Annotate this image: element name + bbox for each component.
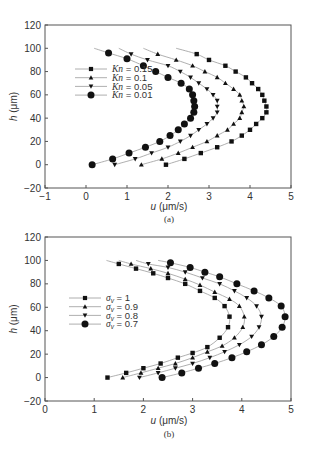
- legend-item: σv = 0.7: [69, 318, 138, 330]
- square-marker-icon: [250, 81, 254, 85]
- square-marker-icon: [223, 64, 227, 68]
- square-marker-icon: [260, 93, 264, 97]
- legend-square-marker-icon: [83, 296, 87, 300]
- square-marker-icon: [227, 314, 231, 318]
- legend-item: Kn = 0.01: [75, 89, 152, 100]
- circle-marker-icon: [279, 324, 286, 331]
- square-marker-icon: [105, 375, 109, 379]
- triangle-up-marker-icon: [220, 343, 225, 347]
- square-marker-icon: [158, 361, 162, 365]
- square-marker-icon: [166, 276, 170, 280]
- legend: σv = 1σv = 0.9σv = 0.8σv = 0.7: [69, 292, 138, 330]
- square-marker-icon: [195, 52, 199, 56]
- square-marker-icon: [176, 355, 180, 359]
- circle-marker-icon: [228, 354, 235, 361]
- y-tick-label: 0: [35, 159, 41, 170]
- circle-marker-icon: [178, 80, 185, 87]
- x-tick-label: −1: [39, 191, 51, 202]
- circle-marker-icon: [181, 120, 188, 127]
- triangle-up-marker-icon: [240, 325, 245, 329]
- x-tick-label: 4: [239, 404, 245, 415]
- square-marker-icon: [190, 351, 194, 355]
- series-curve: [136, 260, 262, 377]
- legend-square-marker-icon: [89, 67, 93, 71]
- triangle-down-marker-icon: [196, 81, 201, 85]
- square-marker-icon: [215, 145, 219, 149]
- chart-panel-b: 012345−20020406080100120u (μm/s)h (μm)(b…: [8, 232, 294, 440]
- y-tick-label: −20: [24, 183, 41, 194]
- triangle-up-marker-icon: [202, 69, 207, 73]
- square-marker-icon: [262, 98, 266, 102]
- y-tick-label: 80: [30, 66, 42, 77]
- circle-marker-icon: [123, 55, 130, 62]
- legend: Kn = 0.15Kn = 0.1Kn = 0.05Kn = 0.01: [75, 63, 152, 100]
- figure-caption: (b): [164, 429, 175, 439]
- square-marker-icon: [240, 133, 244, 137]
- y-axis: −20020406080100120: [24, 20, 48, 194]
- square-marker-icon: [254, 122, 258, 126]
- triangle-down-marker-icon: [215, 105, 220, 109]
- triangle-up-marker-icon: [215, 75, 220, 79]
- triangle-down-marker-icon: [215, 110, 220, 114]
- y-tick-label: 100: [24, 43, 41, 54]
- square-marker-icon: [151, 271, 155, 275]
- circle-marker-icon: [156, 138, 163, 145]
- y-tick-label: 20: [30, 136, 42, 147]
- circle-marker-icon: [187, 264, 194, 271]
- triangle-up-marker-icon: [239, 110, 244, 114]
- triangle-down-marker-icon: [215, 99, 220, 103]
- x-tick-label: 1: [124, 191, 130, 202]
- series-square: [164, 48, 269, 167]
- triangle-up-marker-icon: [242, 314, 247, 318]
- figure-caption: (a): [164, 214, 174, 224]
- square-marker-icon: [124, 371, 128, 375]
- circle-marker-icon: [195, 365, 202, 372]
- circle-marker-icon: [142, 144, 149, 151]
- circle-marker-icon: [216, 273, 223, 280]
- circle-marker-icon: [105, 49, 112, 56]
- square-marker-icon: [233, 69, 237, 73]
- triangle-up-marker-icon: [241, 104, 246, 108]
- x-axis-label: u (μm/s): [151, 415, 188, 426]
- x-tick-label: 2: [141, 404, 147, 415]
- square-marker-icon: [207, 58, 211, 62]
- figure: −1012345−20020406080100120u (μm/s)h (μm)…: [0, 0, 309, 457]
- triangle-up-marker-icon: [205, 139, 210, 143]
- circle-marker-icon: [201, 269, 208, 276]
- triangle-down-marker-icon: [259, 315, 264, 319]
- square-marker-icon: [248, 128, 252, 132]
- circle-marker-icon: [258, 341, 265, 348]
- y-axis: −20020406080100120: [24, 232, 48, 407]
- square-marker-icon: [182, 157, 186, 161]
- x-tick-label: 4: [247, 191, 253, 202]
- y-tick-label: 120: [24, 232, 41, 243]
- circle-marker-icon: [89, 161, 96, 168]
- triangle-up-marker-icon: [227, 297, 232, 301]
- square-marker-icon: [256, 87, 260, 91]
- square-marker-icon: [199, 151, 203, 155]
- circle-marker-icon: [278, 303, 285, 310]
- triangle-down-marker-icon: [205, 122, 210, 126]
- triangle-up-marker-icon: [223, 81, 228, 85]
- square-marker-icon: [217, 336, 221, 340]
- x-tick-label: 0: [83, 191, 89, 202]
- square-marker-icon: [229, 139, 233, 143]
- y-tick-label: 60: [30, 302, 42, 313]
- circle-marker-icon: [167, 259, 174, 266]
- y-tick-label: 0: [35, 372, 41, 383]
- legend-circle-marker-icon: [87, 92, 94, 99]
- y-tick-label: −20: [24, 396, 41, 407]
- square-marker-icon: [264, 104, 268, 108]
- x-tick-label: 0: [42, 404, 48, 415]
- circle-marker-icon: [186, 86, 193, 93]
- legend-circle-marker-icon: [81, 321, 88, 328]
- legend-label: Kn = 0.01: [111, 89, 152, 100]
- square-marker-icon: [264, 110, 268, 114]
- triangle-down-marker-icon: [137, 376, 142, 380]
- square-marker-icon: [117, 262, 121, 266]
- triangle-up-marker-icon: [239, 98, 244, 102]
- triangle-down-marker-icon: [196, 128, 201, 132]
- x-tick-label: 3: [190, 404, 196, 415]
- circle-marker-icon: [211, 360, 218, 367]
- circle-marker-icon: [109, 155, 116, 162]
